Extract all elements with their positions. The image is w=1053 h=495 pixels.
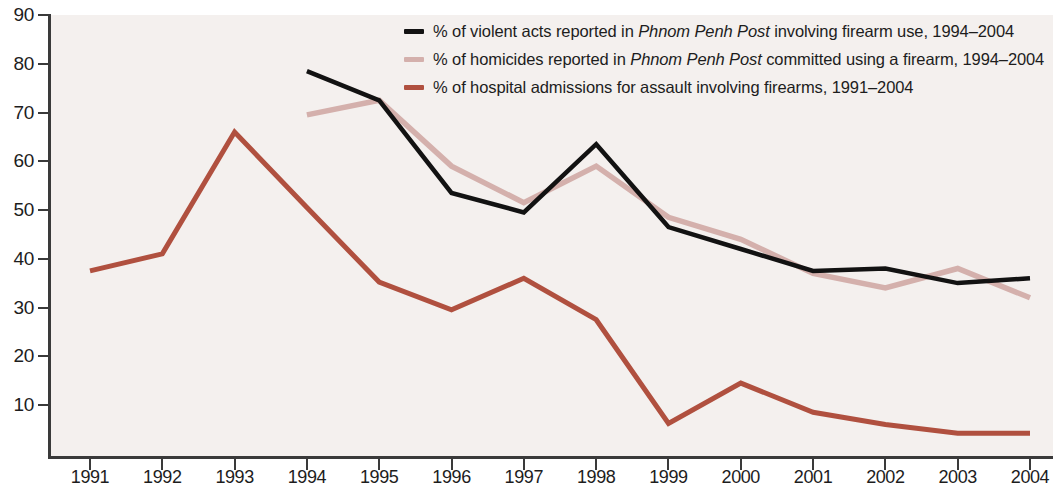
- y-tick-label-60: 60: [0, 151, 34, 170]
- x-tick-label-2001: 2001: [777, 468, 849, 486]
- y-tick-label-80: 80: [0, 54, 34, 73]
- x-tick-label-1993: 1993: [199, 468, 271, 486]
- x-axis-line: [48, 456, 1053, 459]
- x-tick-label-1996: 1996: [416, 468, 488, 486]
- y-tick-label-30: 30: [0, 298, 34, 317]
- legend-label-2: % of hospital admissions for assault inv…: [433, 78, 913, 97]
- y-tick-30: [38, 307, 49, 309]
- x-tick-label-1999: 1999: [632, 468, 704, 486]
- y-tick-label-20: 20: [0, 346, 34, 365]
- y-axis-line: [48, 14, 51, 459]
- y-tick-60: [38, 160, 49, 162]
- legend-label-1: % of homicides reported in Phnom Penh Po…: [433, 50, 1044, 69]
- y-tick-50: [38, 209, 49, 211]
- y-tick-10: [38, 404, 49, 406]
- y-tick-20: [38, 355, 49, 357]
- y-tick-90: [38, 14, 49, 16]
- x-tick-label-1997: 1997: [488, 468, 560, 486]
- legend-swatch-icon-0: [404, 29, 424, 34]
- legend-item-1[interactable]: % of homicides reported in Phnom Penh Po…: [404, 46, 1044, 72]
- x-tick-label-2004: 2004: [994, 468, 1053, 486]
- x-tick-label-1998: 1998: [560, 468, 632, 486]
- x-tick-label-1992: 1992: [126, 468, 198, 486]
- x-tick-label-2003: 2003: [922, 468, 994, 486]
- legend-swatch-icon-2: [404, 85, 424, 90]
- chart-legend: % of violent acts reported in Phnom Penh…: [404, 18, 1044, 102]
- y-tick-40: [38, 258, 49, 260]
- legend-item-2[interactable]: % of hospital admissions for assault inv…: [404, 74, 1044, 100]
- legend-label-0: % of violent acts reported in Phnom Penh…: [433, 22, 1014, 41]
- y-tick-label-50: 50: [0, 200, 34, 219]
- x-tick-label-1994: 1994: [271, 468, 343, 486]
- x-tick-label-1995: 1995: [343, 468, 415, 486]
- y-tick-label-10: 10: [0, 395, 34, 414]
- x-tick-label-1991: 1991: [54, 468, 126, 486]
- y-tick-70: [38, 112, 49, 114]
- y-tick-label-40: 40: [0, 249, 34, 268]
- y-tick-80: [38, 63, 49, 65]
- x-tick-label-2002: 2002: [849, 468, 921, 486]
- line-chart: 908070605040302010 199119921993199419951…: [0, 0, 1053, 495]
- legend-swatch-icon-1: [404, 57, 424, 62]
- y-tick-label-90: 90: [0, 5, 34, 24]
- y-tick-label-70: 70: [0, 103, 34, 122]
- legend-item-0[interactable]: % of violent acts reported in Phnom Penh…: [404, 18, 1044, 44]
- x-tick-label-2000: 2000: [705, 468, 777, 486]
